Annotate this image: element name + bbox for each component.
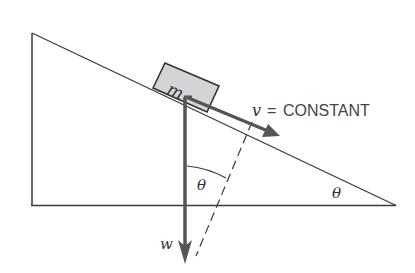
velocity-equals: = [267, 102, 276, 119]
velocity-arrow [186, 97, 280, 137]
plane-incline-surface [32, 33, 396, 206]
force-angle-label: θ [197, 176, 206, 194]
weight-arrow [178, 97, 192, 264]
incline-diagram: m θ θ w v = CONSTANT [0, 0, 415, 273]
incline-angle-label: θ [332, 184, 341, 202]
force-angle-arc [187, 166, 226, 178]
velocity-label: v = CONSTANT [252, 101, 370, 120]
velocity-symbol: v [252, 101, 261, 120]
weight-label: w [160, 235, 173, 253]
velocity-value: CONSTANT [283, 102, 370, 119]
inclined-plane [31, 33, 396, 206]
